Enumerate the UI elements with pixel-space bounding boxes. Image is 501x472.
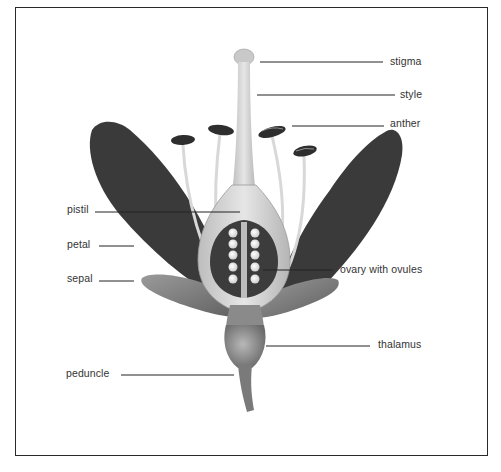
label-stigma: stigma (390, 55, 422, 67)
flower-illustration (0, 0, 501, 472)
label-pistil: pistil (67, 203, 89, 215)
right-petal (272, 130, 403, 305)
label-peduncle: peduncle (66, 367, 109, 379)
thalamus (224, 325, 265, 368)
label-petal: petal (67, 238, 90, 250)
anther-2 (207, 123, 234, 137)
label-anther: anther (390, 117, 420, 129)
label-style: style (400, 88, 422, 100)
label-thalamus: thalamus (378, 338, 421, 350)
anther-1 (171, 134, 195, 145)
label-sepal: sepal (67, 272, 93, 284)
peduncle (238, 365, 254, 412)
label-ovary-with-ovules: ovary with ovules (340, 263, 422, 275)
style (232, 62, 256, 195)
